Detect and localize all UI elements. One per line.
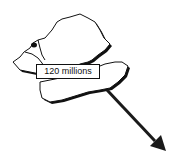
- map-illustration: [0, 0, 172, 163]
- arrow-shaft: [107, 90, 155, 141]
- population-label: 120 millions: [36, 64, 100, 79]
- city-marker: [31, 43, 37, 48]
